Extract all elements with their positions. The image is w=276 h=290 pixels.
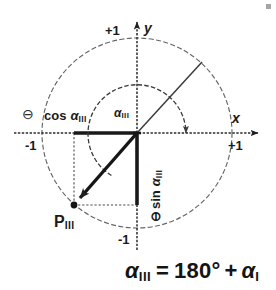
cosine-negative-sign-icon: ⊖ — [22, 107, 34, 121]
point-label-subscript: III — [65, 219, 75, 231]
point-label-letter: P — [54, 213, 65, 230]
scan-artifact-speck — [266, 4, 271, 9]
sine-negative-sign-icon: ⊖ — [148, 211, 163, 222]
x-positive-tick-label: +1 — [228, 139, 243, 152]
formula-equals: = — [156, 258, 169, 283]
x-axis-label: x — [232, 111, 240, 125]
y-axis-label: y — [144, 21, 152, 35]
angle-label-subscript: III — [121, 111, 129, 120]
sine-term-text: sin — [148, 190, 163, 209]
point-label: PIII — [54, 214, 75, 230]
formula-degrees: 180° — [174, 258, 220, 283]
cosine-term-text: cos — [44, 108, 66, 123]
cosine-term-label: cosαIII — [44, 109, 87, 123]
sine-term-alpha: α — [148, 178, 163, 186]
formula: αIII=180°+αI — [125, 258, 259, 284]
formula-alpha-ref-subscript: I — [255, 269, 259, 284]
angle-label: αIII — [114, 107, 129, 120]
y-negative-tick-label: -1 — [118, 233, 130, 246]
x-negative-tick-label: -1 — [25, 139, 37, 152]
point-p-three — [71, 202, 78, 209]
sine-term-label: ⊖sinαIII — [149, 170, 163, 222]
cosine-term-subscript: III — [78, 114, 86, 124]
formula-plus: + — [224, 258, 237, 283]
sine-term-subscript: III — [154, 170, 164, 178]
formula-alpha: α — [125, 258, 139, 283]
figure-canvas: +1 y x +1 -1 -1 ⊖ cosαIII αIII ⊖sinαIII … — [0, 0, 276, 290]
y-positive-tick-label: +1 — [105, 24, 120, 37]
formula-alpha-ref: α — [241, 258, 255, 283]
formula-alpha-subscript: III — [139, 269, 151, 284]
